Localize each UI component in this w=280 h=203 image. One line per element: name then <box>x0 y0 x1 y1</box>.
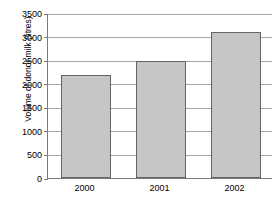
gridline <box>48 14 272 15</box>
plot-area: 0500100015002000250030003500 <box>47 14 272 179</box>
y-axis-tick-label: 1500 <box>22 103 42 113</box>
y-axis-tick-label: 500 <box>27 150 42 160</box>
y-axis-tick <box>44 131 48 132</box>
y-axis-tick <box>44 84 48 85</box>
y-axis-tick-label: 3500 <box>22 9 42 19</box>
bar-chart: Volume of donor milk (litres) 0500100015… <box>0 0 280 203</box>
y-axis-tick <box>44 155 48 156</box>
x-axis-tick-label: 2000 <box>74 183 94 193</box>
bar-2000 <box>61 75 111 178</box>
y-axis-tick-label: 3000 <box>22 33 42 43</box>
y-axis-tick <box>44 37 48 38</box>
y-axis-tick-label: 0 <box>37 174 42 184</box>
y-axis-tick-label: 2000 <box>22 80 42 90</box>
y-axis-tick <box>44 61 48 62</box>
bar-2001 <box>136 61 186 178</box>
y-axis-tick <box>44 179 48 180</box>
x-axis-tick-label: 2001 <box>149 183 169 193</box>
y-axis-tick <box>44 108 48 109</box>
y-axis-tick-label: 1000 <box>22 127 42 137</box>
bar-2002 <box>211 32 261 178</box>
y-axis-tick-label: 2500 <box>22 56 42 66</box>
x-axis-tick-label: 2002 <box>224 183 244 193</box>
y-axis-tick <box>44 14 48 15</box>
